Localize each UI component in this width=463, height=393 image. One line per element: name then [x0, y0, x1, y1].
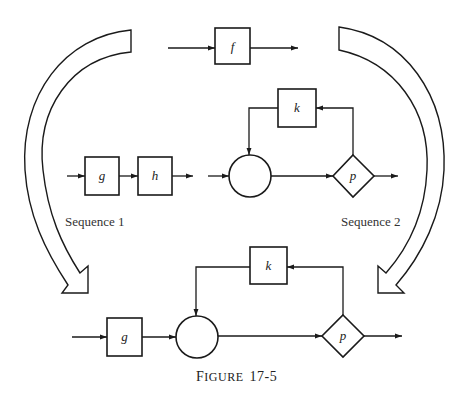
- result-p-label: p: [339, 328, 347, 343]
- seq2-p-to-k-arrow: [316, 108, 353, 155]
- combined-sequence: g k p: [72, 247, 402, 358]
- result-p-to-k-arrow: [287, 267, 343, 315]
- result-g-label: g: [121, 329, 128, 344]
- result-junction-circle: [176, 316, 218, 358]
- sequence-2: k p Sequence 2: [208, 89, 401, 229]
- seq2-k-label: k: [294, 100, 300, 115]
- result-k-label: k: [266, 258, 272, 273]
- figure-caption: FIGURE17-5: [196, 369, 277, 384]
- seq2-k-to-circle-arrow: [249, 108, 278, 155]
- seq1-g-label: g: [99, 168, 106, 183]
- sequence-1-label: Sequence 1: [65, 214, 125, 229]
- seq1-h-label: h: [152, 168, 159, 183]
- figure-17-5-diagram: f g h Sequence 1 k p Sequence 2 g k: [0, 0, 463, 393]
- sequence-1: g h Sequence 1: [65, 157, 193, 229]
- seq2-junction-circle: [229, 155, 271, 197]
- top-f-block: f: [168, 28, 298, 64]
- sequence-2-label: Sequence 2: [341, 214, 401, 229]
- seq2-p-label: p: [349, 168, 357, 183]
- result-k-to-circle-arrow: [196, 267, 250, 316]
